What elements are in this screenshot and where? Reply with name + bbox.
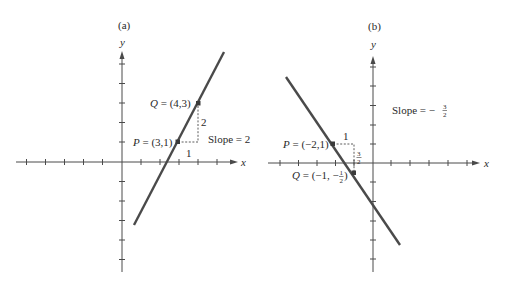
panel-a-x-axis-label: x: [240, 156, 246, 168]
panel-a-point-p: [176, 140, 181, 145]
panel-a-point-q: [196, 101, 201, 106]
panel-a-q-label: Q = (4,3): [150, 97, 191, 110]
panel-b-y-axis-label: y: [370, 38, 376, 50]
svg-text:Q = (−1, −: Q = (−1, −: [292, 169, 339, 182]
svg-text:2: 2: [443, 111, 447, 119]
panel-b-rise-label: 3 2: [357, 150, 362, 166]
panel-b-line: [286, 77, 400, 245]
panel-a-p-label: P = (3,1): [132, 136, 173, 149]
svg-text:2: 2: [357, 158, 361, 166]
svg-text:3: 3: [357, 150, 361, 158]
svg-text:1: 1: [340, 169, 344, 177]
panel-b-q-label: Q = (−1, − 1 2 ): [292, 169, 348, 185]
panel-b-point-p: [331, 142, 336, 147]
panel-a: (a) y x: [16, 19, 250, 272]
panel-a-rise-label: 2: [201, 116, 207, 128]
svg-text:): ): [344, 169, 348, 182]
slope-diagram: (a) y x: [0, 0, 505, 285]
panel-b-label: (b): [368, 20, 381, 33]
svg-text:3: 3: [443, 103, 447, 111]
panel-a-x-arrow-icon: [230, 160, 238, 165]
panel-a-label: (a): [118, 19, 131, 32]
panel-b-x-arrow-icon: [472, 161, 480, 166]
panel-b-y-arrow-icon: [371, 56, 376, 64]
panel-b-p-label: P = (−2,1): [282, 138, 329, 151]
svg-text:Slope = −: Slope = −: [392, 104, 435, 116]
panel-b: (b) y x: [268, 20, 489, 272]
panel-a-slope-label: Slope = 2: [208, 133, 250, 145]
panel-b-point-q: [352, 171, 357, 176]
panel-a-y-axis-label: y: [119, 36, 125, 48]
panel-b-x-axis-label: x: [483, 157, 489, 169]
panel-a-run-label: 1: [186, 147, 192, 159]
svg-text:2: 2: [340, 177, 344, 185]
panel-a-y-arrow-icon: [120, 51, 125, 59]
panel-b-slope-label: Slope = − 3 2: [392, 103, 447, 119]
panel-b-run-label: 1: [343, 130, 349, 142]
